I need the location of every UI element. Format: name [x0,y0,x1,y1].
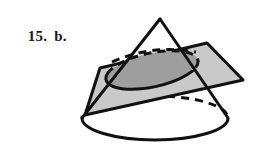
cone-plane-diagram [0,0,261,162]
figure-container: 15.b. [0,0,261,162]
